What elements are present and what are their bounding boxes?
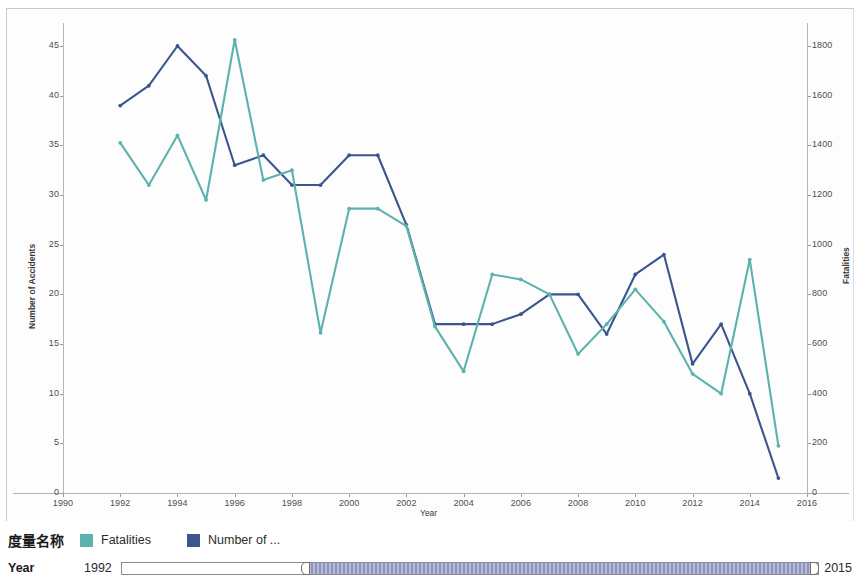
y-tick-label: 40 <box>27 90 59 100</box>
data-point[interactable] <box>319 183 323 187</box>
y-tick-label: 10 <box>27 388 59 398</box>
y2-tick-label: 200 <box>812 437 844 447</box>
data-point[interactable] <box>347 207 351 211</box>
x-axis-title: Year <box>420 508 437 518</box>
legend-label-accidents: Number of ... <box>208 533 280 547</box>
data-point[interactable] <box>519 312 523 316</box>
data-point[interactable] <box>176 134 180 138</box>
data-point[interactable] <box>748 258 752 262</box>
x-tick-mark <box>292 494 293 497</box>
y-tick-label: 5 <box>27 437 59 447</box>
data-point[interactable] <box>147 183 151 187</box>
data-point[interactable] <box>290 168 294 172</box>
data-point[interactable] <box>519 278 523 282</box>
x-tick-mark <box>120 494 121 497</box>
data-point[interactable] <box>490 322 494 326</box>
data-point[interactable] <box>776 444 780 448</box>
y-tick-mark <box>60 294 63 295</box>
y2-axis-title: Fatalities <box>841 247 851 284</box>
chart-application-root: 051015202530354045 020040060080010001200… <box>0 0 860 584</box>
legend-item-accidents[interactable]: Number of ... <box>187 533 280 547</box>
data-point[interactable] <box>490 273 494 277</box>
year-range-slider-handle-right[interactable] <box>810 562 819 575</box>
data-point[interactable] <box>376 207 380 211</box>
year-range-slider-handle-left[interactable] <box>301 562 310 575</box>
x-tick-label: 1990 <box>43 498 83 508</box>
data-point[interactable] <box>748 392 752 396</box>
data-point[interactable] <box>462 322 466 326</box>
x-tick-label: 2014 <box>730 498 770 508</box>
data-point[interactable] <box>404 224 408 228</box>
data-point[interactable] <box>691 362 695 366</box>
data-point[interactable] <box>433 325 437 329</box>
x-tick-mark <box>750 494 751 497</box>
x-tick-mark <box>235 494 236 497</box>
y2-tick-mark <box>808 96 811 97</box>
year-range-slider-track[interactable] <box>121 562 819 575</box>
y2-tick-mark <box>808 145 811 146</box>
data-point[interactable] <box>319 331 323 335</box>
x-tick-label: 2016 <box>787 498 827 508</box>
x-tick-mark <box>693 494 694 497</box>
data-point[interactable] <box>605 322 609 326</box>
x-tick-mark <box>349 494 350 497</box>
data-point[interactable] <box>233 38 237 42</box>
legend-title: 度量名称 <box>8 530 64 550</box>
y2-tick-mark <box>808 294 811 295</box>
y2-tick-mark <box>808 344 811 345</box>
data-point[interactable] <box>176 44 180 48</box>
data-point[interactable] <box>261 153 265 157</box>
data-point[interactable] <box>204 198 208 202</box>
x-tick-label: 2010 <box>615 498 655 508</box>
data-point[interactable] <box>691 372 695 376</box>
y2-tick-mark <box>808 394 811 395</box>
x-tick-label: 2006 <box>501 498 541 508</box>
data-point[interactable] <box>118 104 122 108</box>
chart-panel: 051015202530354045 020040060080010001200… <box>6 8 854 521</box>
x-tick-label: 1996 <box>215 498 255 508</box>
year-filter-min-value: 1992 <box>84 561 112 575</box>
legend: 度量名称 Fatalities Number of ... <box>8 528 852 552</box>
data-point[interactable] <box>605 332 609 336</box>
y-tick-label: 15 <box>27 338 59 348</box>
year-filter-max-value: 2015 <box>824 561 852 575</box>
x-tick-mark <box>177 494 178 497</box>
data-point[interactable] <box>347 153 351 157</box>
legend-item-fatalities[interactable]: Fatalities <box>80 533 151 547</box>
y2-tick-label: 400 <box>812 388 844 398</box>
data-point[interactable] <box>462 369 466 373</box>
y-axis-title: Number of Accidents <box>27 244 37 329</box>
data-point[interactable] <box>633 287 637 291</box>
y-tick-label: 35 <box>27 139 59 149</box>
year-range-filter: Year 1992 2015 <box>8 556 852 580</box>
data-point[interactable] <box>548 292 552 296</box>
y-tick-label: 30 <box>27 189 59 199</box>
data-point[interactable] <box>662 320 666 324</box>
year-range-slider-selected-range[interactable] <box>306 563 818 574</box>
y2-tick-mark <box>808 443 811 444</box>
data-point[interactable] <box>376 153 380 157</box>
data-point[interactable] <box>118 141 122 145</box>
left-axis-line <box>63 23 64 493</box>
data-point[interactable] <box>662 253 666 257</box>
data-point[interactable] <box>633 273 637 277</box>
x-tick-mark <box>807 494 808 497</box>
x-tick-label: 2008 <box>558 498 598 508</box>
y-tick-mark <box>60 145 63 146</box>
y2-tick-mark <box>808 195 811 196</box>
y2-tick-mark <box>808 493 811 494</box>
data-point[interactable] <box>719 392 723 396</box>
y-tick-mark <box>60 245 63 246</box>
x-tick-mark <box>521 494 522 497</box>
y2-tick-label: 0 <box>812 487 844 497</box>
data-point[interactable] <box>147 84 151 88</box>
data-point[interactable] <box>233 163 237 167</box>
data-point[interactable] <box>261 178 265 182</box>
data-point[interactable] <box>719 322 723 326</box>
data-point[interactable] <box>576 292 580 296</box>
y2-tick-label: 800 <box>812 288 844 298</box>
y2-tick-mark <box>808 245 811 246</box>
data-point[interactable] <box>776 476 780 480</box>
data-point[interactable] <box>576 352 580 356</box>
data-point[interactable] <box>204 74 208 78</box>
